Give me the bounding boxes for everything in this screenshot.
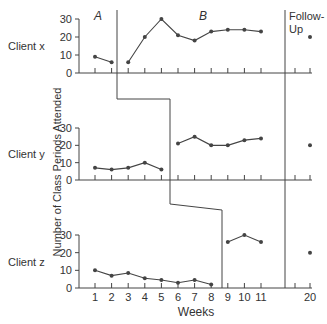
treatment-line xyxy=(178,137,261,146)
multiple-baseline-chart: 0102030Client x0102030Client y0102030Cli… xyxy=(0,0,327,324)
client-label: Client z xyxy=(8,256,45,268)
data-point xyxy=(176,281,180,285)
x-tick-label: 5 xyxy=(158,291,164,303)
x-tick-label: 20 xyxy=(304,291,316,303)
y-axis-label: Number of Class Periods Attended xyxy=(51,88,63,257)
data-point xyxy=(93,55,97,59)
data-point xyxy=(159,17,163,21)
y-tick-label: 30 xyxy=(60,13,72,25)
x-tick-label: 7 xyxy=(192,291,198,303)
phase-label-b: B xyxy=(199,9,207,23)
data-point xyxy=(209,143,213,147)
data-point xyxy=(143,161,147,165)
data-point xyxy=(176,142,180,146)
data-point xyxy=(308,143,312,147)
y-tick-label: 0 xyxy=(66,67,72,79)
data-point xyxy=(308,251,312,255)
data-point xyxy=(242,28,246,32)
data-point xyxy=(226,240,230,244)
data-point xyxy=(126,166,130,170)
data-point xyxy=(193,135,197,139)
data-point xyxy=(226,143,230,147)
data-point xyxy=(110,274,114,278)
baseline-line xyxy=(95,57,112,62)
data-point xyxy=(143,35,147,39)
data-point xyxy=(93,268,97,272)
x-tick-label: 9 xyxy=(225,291,231,303)
data-point xyxy=(209,30,213,34)
data-point xyxy=(126,271,130,275)
client-label: Client y xyxy=(8,148,45,160)
phase-label-follow-up: Follow- xyxy=(289,10,325,22)
data-point xyxy=(193,278,197,282)
data-point xyxy=(226,28,230,32)
x-tick-label: 2 xyxy=(109,291,115,303)
phase-label-a: A xyxy=(93,9,102,23)
data-point xyxy=(259,30,263,34)
data-point xyxy=(242,233,246,237)
data-point xyxy=(159,168,163,172)
x-tick-label: 10 xyxy=(238,291,250,303)
x-axis-label: Weeks xyxy=(178,305,214,319)
y-tick-label: 0 xyxy=(66,282,72,294)
data-point xyxy=(259,240,263,244)
data-point xyxy=(110,168,114,172)
y-tick-label: 10 xyxy=(60,49,72,61)
client-label: Client x xyxy=(8,40,45,52)
y-tick-label: 10 xyxy=(60,264,72,276)
data-point xyxy=(259,136,263,140)
data-point xyxy=(126,60,130,64)
x-tick-label: 8 xyxy=(208,291,214,303)
x-tick-label: 4 xyxy=(142,291,148,303)
data-point xyxy=(193,39,197,43)
data-point xyxy=(110,60,114,64)
phase-label-follow-up-2: Up xyxy=(289,23,303,35)
data-point xyxy=(143,276,147,280)
x-tick-label: 1 xyxy=(92,291,98,303)
data-point xyxy=(93,166,97,170)
phase-change-line-1 xyxy=(117,10,222,288)
x-tick-label: 3 xyxy=(125,291,131,303)
data-point xyxy=(159,278,163,282)
y-tick-label: 20 xyxy=(60,31,72,43)
data-point xyxy=(308,35,312,39)
data-point xyxy=(242,138,246,142)
data-point xyxy=(176,33,180,37)
y-tick-label: 0 xyxy=(66,174,72,186)
panel-client-x: 0102030Client x xyxy=(8,13,312,79)
x-tick-label: 11 xyxy=(255,291,266,303)
x-tick-label: 6 xyxy=(175,291,181,303)
data-point xyxy=(209,282,213,286)
